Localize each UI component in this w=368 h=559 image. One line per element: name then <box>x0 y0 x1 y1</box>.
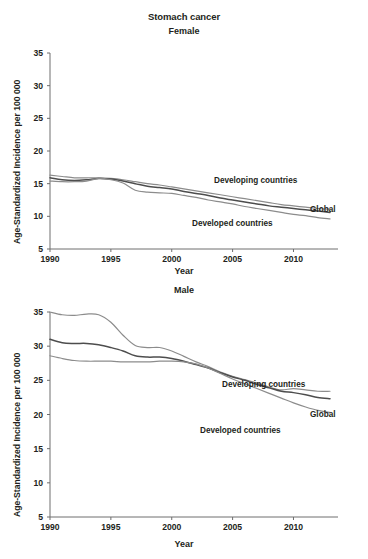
y-tick-label-15: 15 <box>23 444 43 454</box>
panel-male-plot <box>0 285 368 559</box>
y-tick-label-15: 15 <box>23 179 43 189</box>
x-tick-label-1990: 1990 <box>30 254 70 264</box>
series-label-global: Global <box>310 410 335 419</box>
y-tick-label-30: 30 <box>23 341 43 351</box>
series-label-global: Global <box>310 205 335 214</box>
x-tick-label-2010: 2010 <box>273 522 313 532</box>
series-line-global <box>50 339 330 398</box>
figure-title: Stomach cancer <box>0 11 368 22</box>
x-tick-label-2000: 2000 <box>152 254 192 264</box>
y-tick-label-5: 5 <box>23 512 43 522</box>
y-tick-label-5: 5 <box>23 244 43 254</box>
y-tick-label-25: 25 <box>23 375 43 385</box>
series-label-developing-countries: Developing countries <box>222 380 305 389</box>
panel-female-plot <box>0 26 368 281</box>
x-tick-label-1995: 1995 <box>91 254 131 264</box>
y-tick-label-10: 10 <box>23 211 43 221</box>
y-tick-label-30: 30 <box>23 81 43 91</box>
x-tick-label-1990: 1990 <box>30 522 70 532</box>
y-tick-label-35: 35 <box>23 307 43 317</box>
y-tick-label-35: 35 <box>23 48 43 58</box>
y-tick-label-20: 20 <box>23 146 43 156</box>
y-tick-label-20: 20 <box>23 410 43 420</box>
figure-container: Stomach cancer Female Age-Standardized I… <box>0 0 368 559</box>
x-tick-label-1995: 1995 <box>91 522 131 532</box>
panel-female-x-axis-label: Year <box>0 266 368 276</box>
y-tick-label-10: 10 <box>23 478 43 488</box>
x-tick-label-2000: 2000 <box>152 522 192 532</box>
x-tick-label-2005: 2005 <box>213 522 253 532</box>
panel-male: Male Age-Standardized Incidence per 100 … <box>0 285 368 559</box>
x-tick-label-2005: 2005 <box>213 254 253 264</box>
series-label-developing-countries: Developing countries <box>214 176 297 185</box>
series-label-developed-countries: Developed countries <box>200 426 281 435</box>
panel-male-x-axis-label: Year <box>0 539 368 549</box>
y-tick-label-25: 25 <box>23 113 43 123</box>
x-tick-label-2010: 2010 <box>273 254 313 264</box>
panel-female: Female Age-Standardized Incidence per 10… <box>0 26 368 281</box>
series-label-developed-countries: Developed countries <box>192 219 273 228</box>
